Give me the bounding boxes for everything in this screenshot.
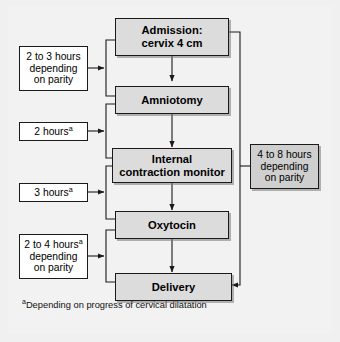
flow-step-delivery[interactable]: Delivery (115, 273, 232, 301)
flow-step-admission-line1: Admission: (142, 24, 203, 36)
interval-box-monitor-to-oxytocin[interactable]: 3 hoursa (19, 183, 88, 202)
flow-step-monitor-line2: contraction monitor (119, 166, 225, 178)
flow-step-amniotomy[interactable]: Amniotomy (115, 86, 229, 114)
flow-step-admission[interactable]: Admission: cervix 4 cm (115, 18, 229, 56)
interval-box-admission-to-amniotomy[interactable]: 2 to 3 hours depending on parity (19, 46, 88, 91)
interval-box-oxytocin-to-delivery[interactable]: 2 to 4 hoursa depending on parity (19, 234, 88, 279)
total-interval-line2: depending (260, 161, 308, 172)
interval-2-footnote-marker: a (69, 184, 73, 193)
total-interval-line3: on parity (265, 172, 305, 183)
interval-1-footnote-marker: a (69, 123, 73, 132)
interval-2-line1: 3 hours (34, 187, 68, 198)
figure-container: Admission: cervix 4 cm Amniotomy Interna… (0, 0, 340, 342)
flow-step-internal-contraction-monitor[interactable]: Internal contraction monitor (112, 148, 232, 183)
flow-step-amniotomy-label: Amniotomy (116, 94, 228, 107)
flow-step-oxytocin[interactable]: Oxytocin (115, 211, 229, 239)
footnote: aDepending on progress of cervical dilat… (22, 300, 207, 310)
interval-0-line3: on parity (34, 74, 74, 85)
interval-box-amniotomy-to-monitor[interactable]: 2 hoursa (19, 122, 88, 141)
interval-0-line1: 2 to 3 hours (26, 51, 80, 62)
total-interval-box-admission-to-delivery[interactable]: 4 to 8 hours depending on parity (250, 144, 319, 189)
flow-step-oxytocin-label: Oxytocin (116, 219, 228, 232)
flow-step-admission-line2: cervix 4 cm (142, 37, 203, 49)
interval-1-line1: 2 hours (34, 126, 68, 137)
flow-step-delivery-label: Delivery (116, 281, 231, 294)
interval-3-line2: depending (29, 251, 77, 262)
footnote-text: Depending on progress of cervical dilata… (26, 300, 207, 310)
interval-3-line1: 2 to 4 hours (24, 239, 78, 250)
interval-3-footnote-marker: a (79, 236, 83, 245)
interval-0-line2: depending (29, 63, 77, 74)
total-interval-line1: 4 to 8 hours (257, 149, 311, 160)
interval-3-line3: on parity (34, 262, 74, 273)
flow-step-monitor-line1: Internal (152, 153, 192, 165)
